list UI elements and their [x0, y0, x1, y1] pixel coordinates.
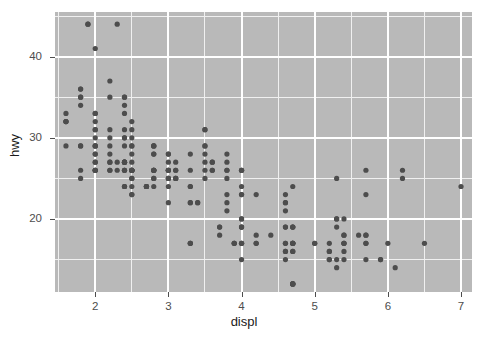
x-tick-label: 6	[385, 301, 391, 313]
x-axis-title: displ	[0, 314, 488, 329]
scatter-point	[129, 168, 134, 173]
x-tick-mark	[242, 292, 243, 297]
scatter-point	[166, 151, 171, 156]
scatter-point	[422, 241, 427, 246]
scatter-point	[195, 200, 200, 205]
scatter-point	[202, 143, 207, 148]
plot-panel-svg	[55, 12, 472, 292]
scatter-point	[378, 257, 383, 262]
scatter-point	[283, 192, 288, 197]
scatter-point	[107, 168, 112, 173]
x-tick-label: 5	[312, 301, 318, 313]
scatter-point	[151, 143, 156, 148]
scatter-point	[115, 168, 120, 173]
y-tick-label: 40	[10, 51, 42, 63]
scatter-point	[224, 192, 229, 197]
scatter-point	[202, 151, 207, 156]
minor-gridlines	[55, 12, 472, 292]
scatter-point	[210, 168, 215, 173]
scatter-point	[93, 143, 98, 148]
scatter-point	[341, 241, 346, 246]
scatter-point	[334, 176, 339, 181]
scatter-point	[78, 176, 83, 181]
scatter-point	[283, 200, 288, 205]
scatter-point	[283, 224, 288, 229]
scatter-point	[129, 143, 134, 148]
scatter-point	[173, 160, 178, 165]
scatter-point	[224, 208, 229, 213]
scatter-point	[239, 168, 244, 173]
scatter-point	[93, 127, 98, 132]
scatter-point	[217, 224, 222, 229]
scatter-point	[107, 160, 112, 165]
scatter-point	[393, 265, 398, 270]
scatter-point	[239, 224, 244, 229]
scatter-point	[107, 135, 112, 140]
scatter-point	[115, 22, 120, 27]
x-tick-mark	[388, 292, 389, 297]
scatter-point	[107, 127, 112, 132]
x-tick-label: 4	[238, 301, 244, 313]
scatter-point	[239, 257, 244, 262]
scatter-point	[151, 168, 156, 173]
scatter-point	[166, 176, 171, 181]
scatter-point	[363, 241, 368, 246]
scatter-point	[334, 224, 339, 229]
scatter-point	[363, 257, 368, 262]
scatter-point	[166, 160, 171, 165]
scatter-point	[129, 151, 134, 156]
scatter-point	[107, 78, 112, 83]
x-tick-label: 3	[165, 301, 171, 313]
scatter-point	[78, 87, 83, 92]
scatter-point	[151, 176, 156, 181]
scatter-point	[283, 257, 288, 262]
scatter-point	[93, 46, 98, 51]
scatter-point	[107, 95, 112, 100]
scatter-point	[363, 233, 368, 238]
x-tick-mark	[168, 292, 169, 297]
scatter-point	[400, 168, 405, 173]
scatter-point	[202, 127, 207, 132]
scatter-point	[93, 160, 98, 165]
scatter-point	[334, 265, 339, 270]
x-tick-label: 7	[458, 301, 464, 313]
scatter-point	[334, 216, 339, 221]
scatter-point	[63, 143, 68, 148]
scatter-point	[239, 192, 244, 197]
scatter-point	[93, 111, 98, 116]
scatter-point	[224, 200, 229, 205]
scatter-point	[356, 233, 361, 238]
scatter-point	[224, 176, 229, 181]
scatter-point	[144, 184, 149, 189]
scatter-point	[129, 192, 134, 197]
scatter-point	[217, 233, 222, 238]
scatter-point	[312, 241, 317, 246]
scatter-point	[63, 119, 68, 124]
scatter-point	[202, 160, 207, 165]
scatter-point	[239, 241, 244, 246]
scatter-point	[283, 241, 288, 246]
scatter-point	[341, 233, 346, 238]
scatter-point	[283, 208, 288, 213]
scatter-point	[327, 257, 332, 262]
scatter-point	[173, 176, 178, 181]
scatter-point	[63, 111, 68, 116]
scatter-point	[202, 176, 207, 181]
scatter-point	[151, 184, 156, 189]
scatter-point	[93, 135, 98, 140]
scatter-point	[78, 95, 83, 100]
scatter-point	[122, 103, 127, 108]
scatter-point	[224, 160, 229, 165]
scatter-point	[341, 249, 346, 254]
scatter-point	[224, 168, 229, 173]
scatter-point	[341, 257, 346, 262]
scatter-point	[290, 249, 295, 254]
scatter-point	[341, 216, 346, 221]
scatter-point	[173, 168, 178, 173]
x-tick-mark	[95, 292, 96, 297]
scatter-point	[129, 184, 134, 189]
x-tick-label: 2	[92, 301, 98, 313]
scatter-point	[107, 151, 112, 156]
scatter-point	[115, 160, 120, 165]
scatter-point	[458, 184, 463, 189]
